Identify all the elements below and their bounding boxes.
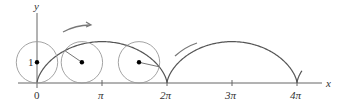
cycloid-figure: y x 1 0 π 2π 3π 4π [0, 0, 341, 104]
circle-center-dot [137, 60, 141, 64]
circle-rolling-2 [118, 42, 159, 83]
circle-center-dot [80, 60, 84, 64]
cycloid-diagram: y x 1 0 π 2π 3π 4π [0, 0, 341, 104]
x-axis-label: x [325, 77, 331, 89]
x-tick-label-2pi: 2π [160, 89, 172, 101]
x-tick-label-0: 0 [34, 89, 40, 101]
rolling-circles [16, 42, 159, 83]
radius-spoke [65, 51, 82, 63]
x-tick-label-4pi: 4π [290, 89, 302, 101]
circle-center-dot [35, 60, 39, 64]
y-axis-label: y [33, 0, 39, 12]
circle-rolling-1 [61, 42, 102, 83]
x-tick-label-pi: π [98, 89, 104, 101]
x-tick-label-3pi: 3π [224, 89, 237, 101]
rolling-direction-arrow-2 [175, 43, 197, 56]
rolling-direction-arrow-1 [63, 22, 91, 32]
cycloid-curve [37, 42, 302, 83]
y-tick-label-1: 1 [28, 56, 34, 68]
